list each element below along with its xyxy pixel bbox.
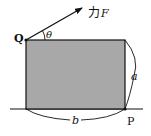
height-label-a: a <box>131 70 138 83</box>
angle-arc <box>43 31 46 40</box>
force-arrow <box>26 8 82 40</box>
force-label-prefix: 力 <box>88 6 100 20</box>
p-label: P <box>127 115 135 128</box>
point-q <box>24 38 27 41</box>
diagram-canvas: 力 F θ Q P a b <box>0 0 151 136</box>
q-label: Q <box>14 32 24 45</box>
force-label-symbol: F <box>100 7 109 20</box>
angle-label: θ <box>46 29 52 40</box>
width-label-b: b <box>72 114 79 127</box>
block <box>26 40 125 109</box>
